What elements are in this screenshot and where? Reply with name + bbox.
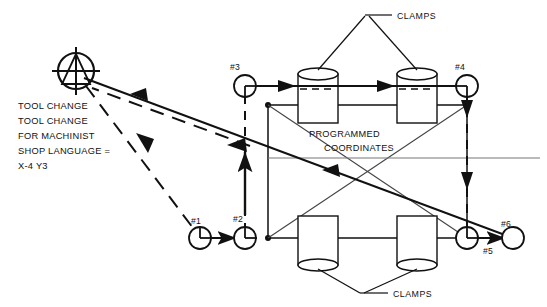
clamp-top-right — [397, 68, 437, 123]
clamps-label-bottom: CLAMPS — [393, 289, 432, 299]
point-label-p5: #5 — [483, 246, 493, 256]
point-marker-p5[interactable] — [456, 226, 479, 249]
arrowhead-p4-p5-a — [461, 100, 473, 118]
path-rapid-origin-upper — [92, 88, 250, 152]
diagram-canvas: CLAMPS CLAMPS PROGRAMMED COORDINATES TOO… — [0, 0, 547, 307]
point-label-p2: #2 — [233, 214, 243, 224]
programmed-coordinates-line2: COORDINATES — [324, 143, 394, 153]
point-marker-p3[interactable] — [234, 75, 257, 99]
tool-change-note-line-4: SHOP LANGUAGE = — [18, 146, 110, 156]
point-label-p4: #4 — [455, 62, 465, 72]
clamps-label-top: CLAMPS — [397, 11, 436, 21]
arrowhead-return-mid — [322, 164, 340, 177]
tool-change-note-line-3: FOR MACHINIST — [18, 131, 95, 141]
point-marker-p2[interactable] — [234, 227, 257, 249]
path-p4-to-p5 — [461, 92, 473, 232]
programmed-coordinates-line1: PROGRAMMED — [309, 129, 380, 139]
tool-change-note-line-1: TOOL CHANGE — [18, 101, 88, 111]
clamp-bottom-left — [298, 216, 338, 271]
clamp-top-left — [298, 68, 338, 123]
clamp-bottom-right — [397, 216, 437, 271]
path-rapid-origin-to-p1 — [86, 86, 196, 232]
tool-change-note-line-5: X-4 Y3 — [18, 161, 48, 171]
clamp-leader-top — [318, 15, 417, 70]
arrowhead-p3-p4-a — [278, 80, 296, 92]
arrowhead-p4-p5-b — [461, 172, 473, 190]
machining-path-diagram: CLAMPS CLAMPS PROGRAMMED COORDINATES TOO… — [0, 0, 547, 307]
point-marker-p4[interactable] — [455, 75, 478, 99]
tool-change-note-line-2: TOOL CHANGE — [18, 116, 88, 126]
arrowhead-p3-p4-b — [377, 80, 395, 92]
point-label-p1: #1 — [191, 216, 201, 226]
point-marker-p1[interactable] — [189, 227, 212, 249]
point-label-p3: #3 — [230, 62, 240, 72]
point-marker-p6[interactable] — [502, 227, 524, 249]
point-label-p6: #6 — [501, 219, 511, 229]
arrowhead-rapid-lower — [136, 133, 154, 153]
